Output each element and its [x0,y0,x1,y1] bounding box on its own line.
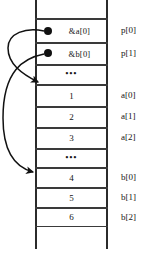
variable-label-a2: a[2] [121,133,136,142]
pointer-value-bullet-p1 [44,49,52,57]
variable-label-a1: a[1] [121,112,136,121]
memory-block: &a[0] &b[0] ••• 1 2 3 ••• 4 5 6 [35,0,108,249]
memory-cell-value: 1 [69,92,74,101]
variable-label-p1: p[1] [121,49,136,58]
memory-cell-value: 6 [69,213,74,222]
memory-cell-value: 5 [69,194,74,203]
pointer-value-bullet-p0 [44,27,52,35]
memory-cell-value: &b[0] [53,50,91,59]
memory-cell-p-gap: ••• [35,65,108,85]
memory-cell-b1: 5 [35,188,108,208]
memory-cell-ab-gap: ••• [35,149,108,168]
variable-label-b2: b[2] [121,213,136,222]
memory-cell-top-pad [35,0,108,19]
memory-cell-value: ••• [65,154,77,162]
memory-cell-value: 3 [69,134,74,143]
memory-cell-value: ••• [65,70,77,78]
memory-layout-figure: &a[0] &b[0] ••• 1 2 3 ••• 4 5 6 [0,0,163,257]
memory-cell-b2: 6 [35,208,108,227]
variable-label-a0: a[0] [121,91,136,100]
memory-cell-a2: 3 [35,128,108,149]
memory-cell-b0: 4 [35,168,108,188]
variable-label-b1: b[1] [121,193,136,202]
memory-cell-a0: 1 [35,85,108,107]
memory-cell-value: &a[0] [53,27,90,36]
memory-cell-value: 2 [69,113,74,122]
variable-label-p0: p[0] [121,26,136,35]
memory-cell-value: 4 [69,174,74,183]
variable-label-b0: b[0] [121,173,136,182]
memory-cell-a1: 2 [35,107,108,128]
